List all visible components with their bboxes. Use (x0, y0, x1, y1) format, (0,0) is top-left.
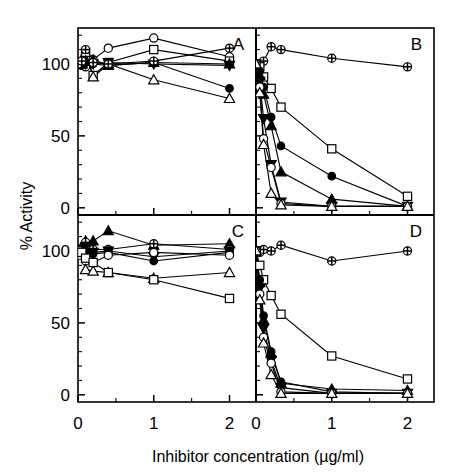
panel-letter-d: D (410, 222, 422, 241)
data-point-open-square (150, 276, 158, 284)
data-point-open-square (89, 258, 97, 266)
data-point-open-square (267, 291, 275, 299)
data-point-open-square (256, 261, 264, 269)
y-axis-title: % Activity (18, 182, 35, 250)
data-point-open-square (225, 294, 233, 302)
y-tick-label: 0 (61, 199, 70, 218)
data-point-open-square (277, 103, 285, 111)
data-point-open-square (267, 84, 275, 92)
dose-response-figure: 050100050100012012ABCD % Activity Inhibi… (0, 0, 456, 472)
x-tick-label: 1 (149, 414, 158, 433)
x-axis-title: Inhibitor concentration (µg/ml) (152, 448, 364, 465)
data-point-open-square (328, 145, 336, 153)
data-point-filled-circle (226, 85, 234, 93)
data-point-open-circle (104, 251, 112, 259)
y-tick-label: 100 (42, 242, 70, 261)
panel-letter-a: A (233, 35, 245, 54)
y-tick-label: 0 (61, 386, 70, 405)
y-tick-label: 50 (51, 127, 70, 146)
data-point-open-square (403, 375, 411, 383)
data-point-open-circle (225, 251, 233, 259)
data-point-open-square (150, 45, 158, 53)
data-point-open-square (104, 268, 112, 276)
data-point-open-square (81, 254, 89, 262)
figure-root: 050100050100012012ABCD % Activity Inhibi… (0, 0, 456, 472)
x-tick-label: 2 (225, 414, 234, 433)
data-point-open-circle (267, 359, 275, 367)
panel-letter-c: C (232, 222, 244, 241)
data-point-filled-circle (277, 142, 285, 150)
data-point-open-circle (150, 248, 158, 256)
x-tick-label: 0 (73, 414, 82, 433)
data-point-open-circle (267, 163, 275, 171)
data-point-filled-circle (328, 172, 336, 180)
data-point-open-circle (104, 44, 112, 52)
panel-letter-b: B (411, 35, 422, 54)
x-tick-label: 1 (327, 414, 336, 433)
x-tick-label: 2 (403, 414, 412, 433)
data-point-open-circle (150, 34, 158, 42)
data-point-open-square (403, 192, 411, 200)
y-tick-label: 100 (42, 55, 70, 74)
data-point-open-square (277, 310, 285, 318)
data-point-filled-circle (89, 250, 97, 258)
data-point-filled-circle (150, 257, 158, 265)
data-point-open-square (328, 352, 336, 360)
x-tick-label: 0 (251, 414, 260, 433)
y-tick-label: 50 (51, 314, 70, 333)
